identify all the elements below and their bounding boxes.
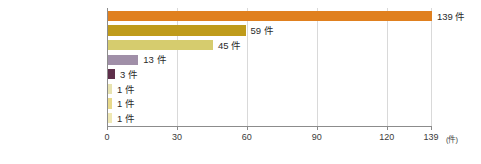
bar <box>108 11 432 21</box>
value-label: 1 件 <box>117 97 135 110</box>
x-tick-label: 0 <box>104 132 109 142</box>
x-tick-label: 60 <box>242 132 252 142</box>
bar-row: 前立腺マッサージ1 件 <box>0 83 481 96</box>
x-tick-mark <box>317 126 318 130</box>
bar <box>108 98 112 108</box>
value-label: 3 件 <box>120 68 138 81</box>
bar <box>108 40 213 50</box>
bar-row: MESA13 件 <box>0 53 481 66</box>
value-label: 1 件 <box>117 112 135 125</box>
value-label: 45 件 <box>218 39 241 52</box>
bar-chart: マスターベーション139 件TESE59 件MD-TESE45 件MESA13 … <box>0 0 481 164</box>
bar <box>108 55 138 65</box>
bar-row: MD-TESE45 件 <box>0 39 481 52</box>
x-tick-mark <box>177 126 178 130</box>
value-label: 1 件 <box>117 83 135 96</box>
bar-row: ReVSA1 件 <box>0 97 481 110</box>
bar <box>108 113 112 123</box>
value-label: 59 件 <box>251 24 274 37</box>
bar <box>108 25 246 35</box>
x-tick-mark <box>431 126 432 130</box>
bar <box>108 69 115 79</box>
x-tick-mark <box>107 126 108 130</box>
x-tick-mark <box>247 126 248 130</box>
x-tick-mark <box>387 126 388 130</box>
x-tick-label: 90 <box>312 132 322 142</box>
bar-row: TESE59 件 <box>0 24 481 37</box>
y-axis-line <box>107 8 108 126</box>
bar-row: マスターベーション139 件 <box>0 10 481 23</box>
x-tick-label: 139 <box>423 132 438 142</box>
bar-row: PESA3 件 <box>0 68 481 81</box>
x-tick-label: 30 <box>172 132 182 142</box>
axis-unit-label: (件) <box>446 133 458 144</box>
value-label: 13 件 <box>143 53 166 66</box>
x-axis-line <box>107 126 431 127</box>
bar <box>108 84 112 94</box>
value-label: 139 件 <box>437 10 466 23</box>
bar-row: 電気1 件 <box>0 112 481 125</box>
x-tick-label: 120 <box>379 132 394 142</box>
